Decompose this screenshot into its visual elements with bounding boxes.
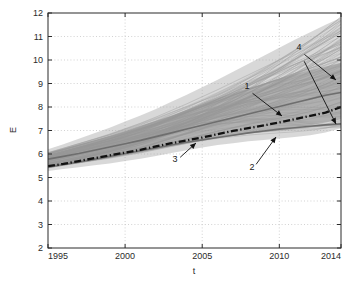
y-tick-label: 10 xyxy=(33,55,43,65)
annotation-label-2: 2 xyxy=(249,162,254,172)
x-tick-label: 2000 xyxy=(115,251,135,261)
y-tick-label: 8 xyxy=(38,102,43,112)
y-tick-label: 5 xyxy=(38,173,43,183)
y-axis-label: E xyxy=(8,127,18,133)
chart-canvas: 23456789101112 19952000200520102014 1234… xyxy=(0,0,363,288)
y-tick-label: 7 xyxy=(38,126,43,136)
x-tick-label: 2014 xyxy=(321,251,341,261)
y-tick-label: 4 xyxy=(38,196,43,206)
y-tick-label: 12 xyxy=(33,8,43,18)
annotation-label-4: 4 xyxy=(296,42,301,52)
y-tick-label: 6 xyxy=(38,149,43,159)
x-tick-label: 2005 xyxy=(192,251,212,261)
x-tick-label: 1995 xyxy=(48,251,68,261)
annotation-label-3: 3 xyxy=(172,154,177,164)
y-tick-label: 2 xyxy=(38,243,43,253)
y-tick-label: 3 xyxy=(38,220,43,230)
annotation-label-1: 1 xyxy=(244,81,249,91)
x-tick-label: 2010 xyxy=(269,251,289,261)
y-tick-label: 9 xyxy=(38,79,43,89)
figure-container: 23456789101112 19952000200520102014 1234… xyxy=(0,0,363,288)
y-tick-label: 11 xyxy=(34,32,43,42)
